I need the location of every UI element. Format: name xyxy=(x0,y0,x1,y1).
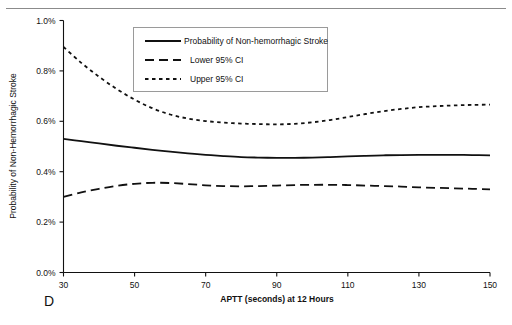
x-tick-label: 50 xyxy=(130,280,140,290)
x-tick-label: 150 xyxy=(483,280,497,290)
y-tick-label: 0.4% xyxy=(36,167,56,177)
legend-label-probability: Probability of Non-hemorrhagic Stroke xyxy=(184,36,328,46)
legend: Probability of Non-hemorrhagic Stroke Lo… xyxy=(134,28,329,92)
x-axis-title: APTT (seconds) at 12 Hours xyxy=(220,294,334,304)
x-tick-label: 110 xyxy=(341,280,355,290)
y-tick-label: 0.2% xyxy=(36,217,56,227)
panel-label: D xyxy=(44,293,54,309)
x-tick-label: 70 xyxy=(201,280,211,290)
series-line-probability xyxy=(64,139,491,158)
y-axis-title: Probability of Non-Hemorrhagic Stroke xyxy=(8,73,18,219)
x-axis-ticks: 30507090110130150 xyxy=(59,273,498,290)
chart-svg: 0.0%0.2%0.4%0.6%0.8%1.0% 305070901101301… xyxy=(0,0,512,325)
y-tick-label: 1.0% xyxy=(36,16,56,26)
series-line-lower-ci xyxy=(64,183,491,197)
y-tick-label: 0.6% xyxy=(36,116,56,126)
legend-label-upper-ci: Upper 95% CI xyxy=(190,74,243,84)
y-tick-label: 0.0% xyxy=(36,268,56,278)
x-tick-label: 130 xyxy=(412,280,426,290)
y-axis-ticks: 0.0%0.2%0.4%0.6%0.8%1.0% xyxy=(36,16,63,278)
x-tick-label: 30 xyxy=(59,280,69,290)
figure-panel-d: 0.0%0.2%0.4%0.6%0.8%1.0% 305070901101301… xyxy=(0,0,512,325)
x-tick-label: 90 xyxy=(272,280,282,290)
y-tick-label: 0.8% xyxy=(36,66,56,76)
legend-label-lower-ci: Lower 95% CI xyxy=(190,55,243,65)
